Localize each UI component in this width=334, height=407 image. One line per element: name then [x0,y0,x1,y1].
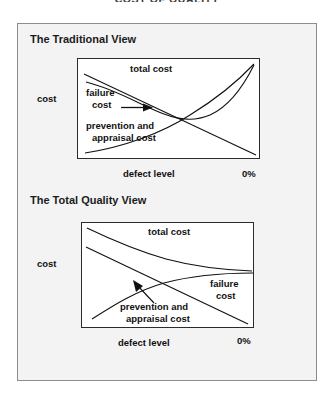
x-axis-label-chart1: defect level [123,168,175,179]
figure-title: COST OF QUALITY [0,0,334,2]
annotation-failure-cost-line2-chart1: cost [92,99,112,111]
annotation-failure-cost-line2-chart2: cost [216,290,236,302]
y-axis-label-cost-chart1: cost [37,93,57,104]
annotation-failure-cost-line1-chart2: failure [210,278,239,290]
annotation-prevention-line2-chart2: appraisal cost [126,313,190,325]
plot-area-total-quality: total cost failure cost prevention and a… [81,222,254,328]
x-axis-zero-label-chart1: 0% [242,168,256,179]
annotation-failure-cost-line1-chart1: failure [86,87,115,99]
y-axis-label-cost-chart2: cost [37,258,57,269]
annotation-total-cost-chart1: total cost [130,63,172,75]
plot-area-traditional: total cost failure cost prevention and a… [77,58,260,159]
annotation-total-cost-chart2: total cost [148,226,190,238]
x-axis-label-chart2: defect level [118,337,170,348]
annotation-prevention-line1-chart1: prevention and [86,120,196,132]
annotation-prevention-line2-chart1: appraisal cost [92,132,202,144]
panel-heading-traditional: The Traditional View [30,33,136,45]
arrow-right-icon-chart1 [121,103,154,112]
annotation-prevention-line1-chart2: prevention and [120,301,188,313]
figure-frame: The Traditional View cost total cost fai… [17,23,317,381]
panel-heading-total-quality: The Total Quality View [30,194,146,206]
x-axis-zero-label-chart2: 0% [237,335,251,346]
